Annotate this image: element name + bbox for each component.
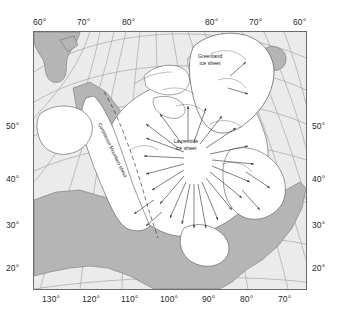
label-greenland-ice-sheet-line2: ice sheet bbox=[200, 60, 221, 66]
label-laurentide-ice-sheet-line2: ice sheet bbox=[176, 145, 197, 151]
axis-left-tick-1: 40° bbox=[6, 175, 19, 184]
axis-top-tick-3: 80° bbox=[205, 18, 218, 27]
axis-bottom-tick-5: 80° bbox=[240, 295, 253, 304]
axis-top-tick-1: 70° bbox=[77, 18, 90, 27]
figure-root: 60° 70° 80° 80° 70° 60° 130° 120° 110° 1… bbox=[0, 0, 341, 320]
axis-right-tick-2: 30° bbox=[312, 221, 325, 230]
axis-bottom-tick-6: 70° bbox=[278, 295, 291, 304]
axis-left-tick-3: 20° bbox=[6, 264, 19, 273]
axis-bottom-tick-4: 90° bbox=[202, 295, 215, 304]
axis-bottom-tick-0: 130° bbox=[42, 295, 60, 304]
axis-top-tick-4: 70° bbox=[249, 18, 262, 27]
axis-top-tick-5: 60° bbox=[293, 18, 306, 27]
axis-bottom-tick-2: 110° bbox=[121, 295, 138, 304]
axis-top-tick-2: 80° bbox=[122, 18, 135, 27]
map-frame: Greenland ice sheet Laurentide ice sheet… bbox=[33, 31, 307, 290]
label-greenland-ice-sheet-line1: Greenland bbox=[198, 53, 222, 59]
axis-bottom-tick-1: 120° bbox=[82, 295, 100, 304]
axis-left-tick-2: 30° bbox=[6, 221, 19, 230]
axis-right-tick-1: 40° bbox=[312, 175, 325, 184]
map-canvas: Greenland ice sheet Laurentide ice sheet… bbox=[34, 32, 306, 289]
axis-bottom-tick-3: 100° bbox=[160, 295, 178, 304]
axis-right-tick-0: 50° bbox=[312, 122, 325, 131]
label-laurentide-ice-sheet-line1: Laurentide bbox=[174, 138, 199, 144]
axis-right-tick-3: 20° bbox=[312, 264, 325, 273]
axis-top-tick-0: 60° bbox=[33, 18, 46, 27]
axis-left-tick-0: 50° bbox=[6, 122, 19, 131]
